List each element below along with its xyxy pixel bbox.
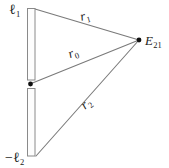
label-e21: E21	[145, 32, 161, 48]
label-ell1-subscript: 1	[16, 9, 20, 19]
ray-r0	[30, 40, 139, 84]
vertex-point-dot	[137, 38, 142, 43]
label-ell2-base: −ℓ	[5, 150, 20, 165]
label-e21-subscript: 21	[153, 40, 162, 50]
diagram-canvas	[0, 0, 169, 168]
label-ell2-subscript: 2	[20, 157, 24, 167]
geometry-diagram: ℓ1 −ℓ2 r1 r0 r2 E21	[0, 0, 169, 168]
lower-element-bar	[28, 89, 36, 157]
upper-element-bar	[28, 9, 36, 81]
label-ell1-base: ℓ	[9, 2, 16, 17]
label-ell1: ℓ1	[9, 1, 20, 17]
label-e21-base: E	[145, 33, 153, 48]
origin-point-dot	[28, 82, 33, 87]
label-ell2: −ℓ2	[5, 149, 24, 165]
